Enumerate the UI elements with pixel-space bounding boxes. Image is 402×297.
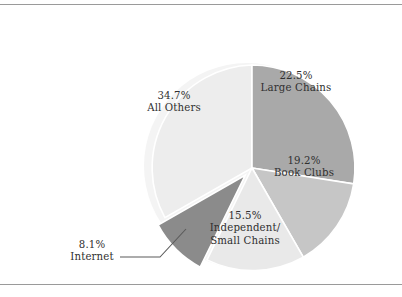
pie-slices [152, 65, 355, 271]
pie-slice-large-chains[interactable] [252, 65, 355, 184]
pie-chart: 22.5% Large Chains 19.2% Book Clubs 15.5… [0, 5, 402, 284]
figure-bottom-rule [0, 284, 402, 285]
pie-chart-svg [0, 5, 402, 284]
figure-container: 22.5% Large Chains 19.2% Book Clubs 15.5… [0, 0, 402, 297]
